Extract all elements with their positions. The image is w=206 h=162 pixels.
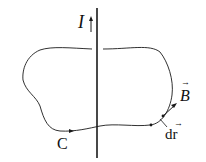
point-marker [150,124,153,127]
loop-direction-icon [69,129,74,133]
field-label: B [180,88,190,104]
current-label: I [78,13,84,31]
loop-label: C [57,136,68,152]
field-vector-arrow: → [181,78,190,87]
current-arrow-icon [89,16,93,32]
element-vector-arrow: → [174,119,183,128]
element-label: dr [165,127,178,142]
